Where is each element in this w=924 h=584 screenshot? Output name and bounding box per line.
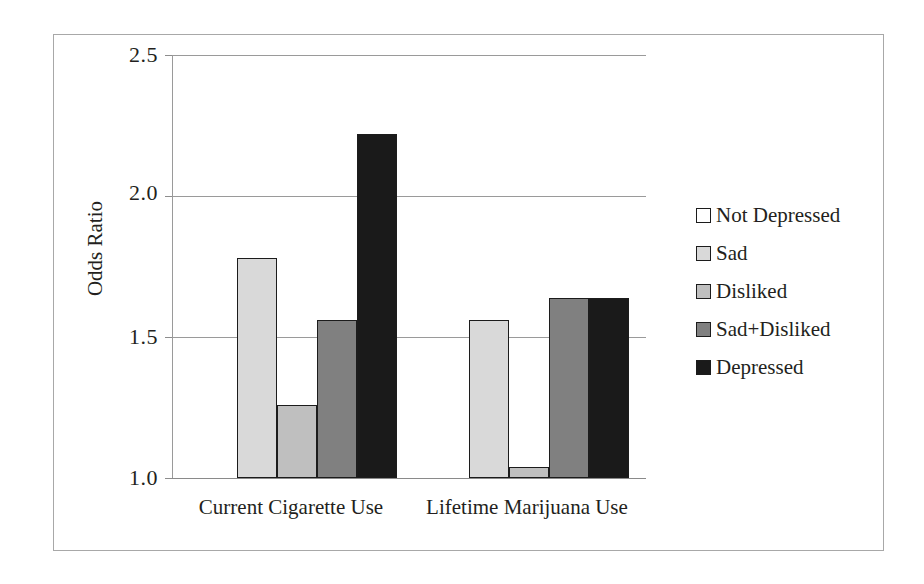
legend-swatch-icon xyxy=(696,208,711,223)
y-tick-label: 1.5 xyxy=(98,326,158,348)
legend-swatch-icon xyxy=(696,322,711,337)
legend-label: Not Depressed xyxy=(716,205,840,226)
legend-swatch-icon xyxy=(696,284,711,299)
y-tick-label: 2.5 xyxy=(98,44,158,66)
bar xyxy=(357,134,397,478)
legend: Not Depressed Sad Disliked Sad+Disliked … xyxy=(696,196,886,386)
gridline-2.5 xyxy=(172,55,646,56)
gridline-1.0-baseline xyxy=(172,478,646,479)
bar xyxy=(317,320,357,478)
legend-label: Sad xyxy=(716,243,748,264)
category-label-0: Current Cigarette Use xyxy=(176,495,406,519)
plot-area xyxy=(172,55,646,478)
bar xyxy=(237,258,277,478)
category-label-1: Lifetime Marijuana Use xyxy=(412,495,642,519)
bar xyxy=(589,298,629,478)
legend-item-not-depressed: Not Depressed xyxy=(696,196,886,234)
bar xyxy=(277,405,317,478)
legend-label: Sad+Disliked xyxy=(716,319,831,340)
bar-chart-figure: Odds Ratio 2.5 2.0 1.5 1.0 Current Cigar… xyxy=(0,0,924,584)
bar xyxy=(549,298,589,478)
gridline-2.0 xyxy=(172,196,646,197)
legend-item-disliked: Disliked xyxy=(696,272,886,310)
legend-swatch-icon xyxy=(696,246,711,261)
bar xyxy=(469,320,509,478)
y-tick-label-group: 2.5 2.0 1.5 1.0 xyxy=(90,0,158,520)
legend-swatch-icon xyxy=(696,360,711,375)
y-tick-label: 2.0 xyxy=(98,182,158,204)
legend-item-depressed: Depressed xyxy=(696,348,886,386)
legend-label: Disliked xyxy=(716,281,787,302)
legend-label: Depressed xyxy=(716,357,803,378)
y-tick-label: 1.0 xyxy=(98,467,158,489)
bar xyxy=(509,467,549,478)
legend-item-sad: Sad xyxy=(696,234,886,272)
legend-item-sad-disliked: Sad+Disliked xyxy=(696,310,886,348)
